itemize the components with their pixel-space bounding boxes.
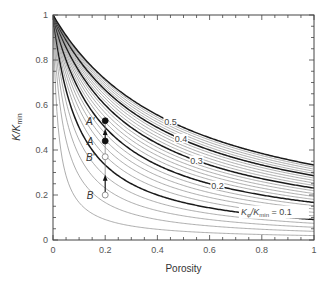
curve-label-0.3: 0.3 (190, 156, 203, 166)
point-label-Aprime: A' (85, 116, 96, 127)
curve-thick-0.2 (53, 15, 314, 203)
point-Bprime (102, 154, 108, 160)
curve-0.28 (53, 15, 314, 191)
x-tick-label: 0.6 (203, 245, 216, 255)
point-B (102, 192, 108, 198)
curve-0.22 (53, 15, 314, 199)
point-label-B: B (87, 190, 94, 201)
point-Aprime (102, 118, 108, 124)
data-points: A'AB'B (85, 116, 108, 201)
y-axis-title: K/Kmin (11, 113, 23, 141)
y-axis-title-main: K/K (11, 123, 22, 140)
x-tick-label: 1 (311, 245, 316, 255)
y-tick-label: 0.6 (35, 100, 48, 110)
x-axis-title: Porosity (165, 263, 201, 274)
point-A (102, 138, 108, 144)
y-tick-label: 0 (43, 235, 48, 245)
x-tick-label: 0.8 (256, 245, 269, 255)
curve-label-0.2: 0.2 (211, 181, 224, 191)
label-part: min (259, 212, 269, 218)
x-tick-label: 0 (50, 245, 55, 255)
curve-0.14 (53, 15, 314, 212)
y-tick-label: 0.2 (35, 190, 48, 200)
y-tick-label: 1 (43, 10, 48, 20)
y-tick-label: 0.4 (35, 145, 48, 155)
label-part: = 0.1 (269, 207, 292, 217)
curve-label-0.5: 0.5 (164, 117, 177, 127)
x-tick-label: 0.4 (151, 245, 164, 255)
y-tick-label: 0.8 (35, 55, 48, 65)
point-label-Bprime: B' (86, 152, 96, 163)
curve-label-0.4: 0.4 (175, 134, 188, 144)
x-tick-label: 0.2 (99, 245, 112, 255)
chart: 00.20.40.60.8100.20.40.60.81 0.50.40.30.… (0, 0, 328, 282)
y-axis-title-sub: min (16, 113, 23, 124)
point-label-A: A (86, 136, 94, 147)
